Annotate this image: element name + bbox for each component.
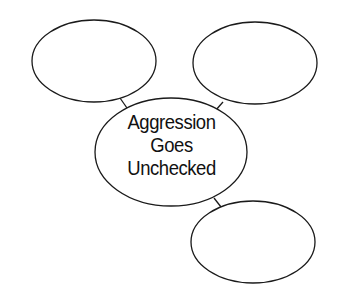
node-bottom-right[interactable] [191,201,315,283]
connector-bottom-right [214,198,221,207]
node-top-right[interactable] [193,22,317,104]
center-topic-label: Aggression Goes Unchecked [104,110,239,179]
center-topic-line-2: Goes [104,133,239,156]
node-top-left[interactable] [32,20,156,102]
center-topic-line-1: Aggression [104,110,239,133]
connector-top-left [120,98,127,108]
center-topic-line-3: Unchecked [104,156,239,179]
